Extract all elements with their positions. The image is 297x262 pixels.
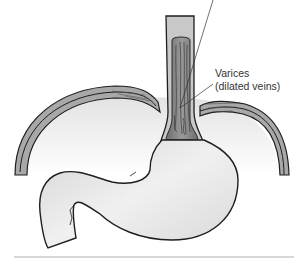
varices-label: Varices [215, 67, 249, 79]
dilated-veins-label: (dilated veins) [215, 80, 280, 92]
esophagus [160, 16, 204, 146]
esophageal-varices-illustration [0, 0, 297, 262]
